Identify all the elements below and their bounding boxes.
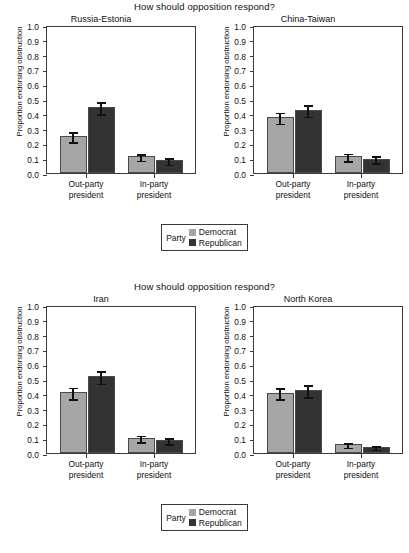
x-tick-mark (154, 454, 155, 458)
bar-dem-out-party (267, 117, 294, 173)
legend-swatch-republican-icon (189, 519, 196, 526)
x-tick-label-line1: In-party (111, 459, 197, 470)
y-tick-label: 0.0 (13, 169, 39, 181)
panel-china-taiwan: China-Taiwan Proportion endorsing obstru… (210, 13, 406, 218)
error-bar-cap-bottom (344, 161, 353, 163)
y-tick-mark (250, 175, 254, 176)
error-bar-cap-top (69, 388, 78, 390)
error-bar-cap-top (165, 438, 174, 440)
chart-block-top: How should opposition respond? Russia-Es… (0, 0, 409, 218)
x-tick-label: In-partypresident (111, 179, 197, 200)
error-bar-cap-top (372, 446, 381, 448)
y-tick-mark (250, 145, 254, 146)
x-tick-mark (293, 174, 294, 178)
error-bar-cap-bottom (137, 161, 146, 163)
y-tick-mark (250, 425, 254, 426)
y-tick-mark (250, 56, 254, 57)
y-tick-mark (43, 440, 47, 441)
y-tick-mark (250, 321, 254, 322)
error-bar-cap-top (304, 105, 313, 107)
y-tick-mark (43, 351, 47, 352)
x-tick-mark (293, 454, 294, 458)
x-tick-mark (154, 174, 155, 178)
block-title-bottom: How should opposition respond? (0, 280, 409, 293)
bar-dem-out-party (267, 393, 294, 453)
legend-title: Party (166, 233, 186, 243)
error-bar-cap-bottom (372, 163, 381, 165)
y-tick-label: 0.3 (220, 405, 246, 417)
error-bar-cap-bottom (344, 448, 353, 450)
error-bar-cap-bottom (276, 124, 285, 126)
error-bar-cap-top (97, 371, 106, 373)
error-bar-cap-bottom (165, 444, 174, 446)
legend-bottom: Party Democrat Republican (0, 504, 409, 531)
error-bar-cap-bottom (304, 397, 313, 399)
y-tick-label: 0.1 (13, 154, 39, 166)
y-tick-mark (250, 336, 254, 337)
y-tick-label: 0.6 (220, 360, 246, 372)
bar-dem-out-party (60, 392, 87, 453)
y-tick-mark (250, 86, 254, 87)
y-tick-label: 0.3 (13, 125, 39, 137)
y-tick-label: 0.0 (220, 449, 246, 461)
legend-item-democrat: Democrat (189, 507, 242, 518)
x-tick-mark (86, 174, 87, 178)
error-bar-cap-bottom (304, 117, 313, 119)
error-bar-cap-top (276, 113, 285, 115)
y-tick-label: 0.5 (13, 375, 39, 387)
y-tick-label: 0.2 (220, 139, 246, 151)
error-bar-cap-bottom (69, 399, 78, 401)
panel-iran: Iran Proportion endorsing obstruction 0.… (3, 293, 199, 498)
y-tick-label: 0.2 (13, 419, 39, 431)
panel-russia-estonia: Russia-Estonia Proportion endorsing obst… (3, 13, 199, 218)
y-tick-label: 0.9 (220, 316, 246, 328)
y-tick-mark (43, 101, 47, 102)
x-tick-mark (86, 454, 87, 458)
y-tick-label: 0.3 (13, 405, 39, 417)
plot-area: 0.00.10.20.30.40.50.60.70.80.91.0 (253, 26, 403, 174)
y-tick-mark (43, 455, 47, 456)
y-tick-mark (250, 27, 254, 28)
x-tick-label: In-partypresident (318, 179, 404, 200)
legend-title: Party (166, 513, 186, 523)
legend-item-republican: Republican (189, 238, 242, 249)
error-bar-cap-top (97, 102, 106, 104)
y-tick-mark (43, 56, 47, 57)
y-tick-mark (250, 366, 254, 367)
y-tick-mark (250, 130, 254, 131)
y-tick-mark (250, 381, 254, 382)
x-tick-mark (361, 174, 362, 178)
plot-inner: 0.00.10.20.30.40.50.60.70.80.91.0 (47, 307, 195, 453)
y-tick-label: 0.7 (13, 65, 39, 77)
y-tick-label: 0.1 (13, 434, 39, 446)
x-tick-label: In-partypresident (111, 459, 197, 480)
x-tick-label-line1: In-party (318, 179, 404, 190)
y-tick-mark (43, 307, 47, 308)
error-bar-cap-bottom (372, 450, 381, 452)
y-tick-label: 0.9 (220, 36, 246, 48)
error-bar-cap-bottom (97, 114, 106, 116)
bar-rep-out-party (295, 110, 322, 173)
y-tick-mark (250, 410, 254, 411)
y-tick-label: 0.1 (220, 434, 246, 446)
y-tick-mark (43, 115, 47, 116)
y-tick-mark (250, 351, 254, 352)
y-tick-label: 0.8 (220, 331, 246, 343)
y-tick-label: 0.8 (220, 51, 246, 63)
panel-north-korea: North Korea Proportion endorsing obstruc… (210, 293, 406, 498)
plot-area: 0.00.10.20.30.40.50.60.70.80.91.0 (46, 306, 196, 454)
y-tick-label: 0.9 (13, 36, 39, 48)
x-tick-label-line2: president (318, 190, 404, 201)
panels-row-bottom: Iran Proportion endorsing obstruction 0.… (0, 293, 409, 498)
x-tick-mark (361, 454, 362, 458)
legend-label-democrat: Democrat (199, 227, 236, 238)
bar-rep-out-party (88, 376, 115, 453)
y-tick-label: 0.8 (13, 331, 39, 343)
y-tick-mark (43, 336, 47, 337)
y-tick-mark (250, 41, 254, 42)
y-tick-mark (43, 130, 47, 131)
y-tick-mark (43, 41, 47, 42)
y-tick-label: 0.2 (13, 139, 39, 151)
y-tick-mark (250, 307, 254, 308)
plot-area: 0.00.10.20.30.40.50.60.70.80.91.0 (253, 306, 403, 454)
